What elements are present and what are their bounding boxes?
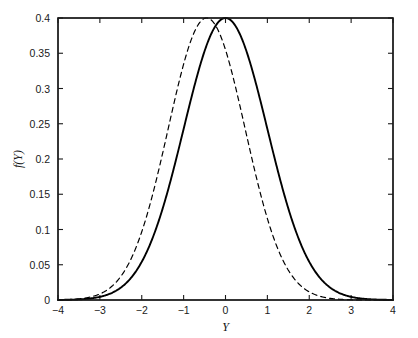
- x-tick-label: −3: [94, 305, 106, 316]
- x-tick-label: −4: [52, 305, 64, 316]
- y-tick-label: 0.35: [0, 48, 50, 59]
- y-tick-label: 0.3: [0, 83, 50, 94]
- x-axis-title: Y: [222, 321, 229, 333]
- plot-area-border: [58, 18, 393, 300]
- y-axis-title: f(Y): [12, 150, 24, 168]
- y-tick-label: 0: [0, 295, 50, 306]
- x-tick-label: 4: [390, 305, 396, 316]
- chart-canvas: [0, 0, 418, 338]
- x-tick-label: 3: [348, 305, 354, 316]
- y-tick-label: 0.05: [0, 260, 50, 271]
- x-tick-label: −1: [178, 305, 190, 316]
- y-tick-label: 0.1: [0, 224, 50, 235]
- x-tick-label: 2: [306, 305, 312, 316]
- y-tick-label: 0.2: [0, 154, 50, 165]
- axes-frame: [58, 18, 393, 300]
- x-tick-label: −2: [136, 305, 148, 316]
- figure-container: 00.050.10.150.20.250.30.350.4 −4−3−2−101…: [0, 0, 418, 338]
- y-tick-label: 0.4: [0, 13, 50, 24]
- y-tick-label: 0.15: [0, 189, 50, 200]
- x-tick-label: 0: [223, 305, 229, 316]
- x-tick-label: 1: [264, 305, 270, 316]
- y-tick-label: 0.25: [0, 119, 50, 130]
